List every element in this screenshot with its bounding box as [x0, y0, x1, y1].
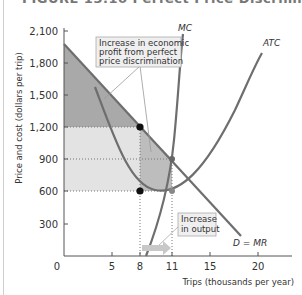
profit-callout-text: price discrimination [99, 56, 183, 66]
y-tick-label: 300 [39, 219, 58, 230]
dmr-label: D = MR [233, 238, 267, 248]
y-tick-label: 1,500 [29, 90, 58, 101]
callout-pointer [104, 66, 140, 99]
output-callout-text: in output [181, 224, 220, 234]
x-tick-label: 20 [252, 261, 265, 272]
point-8-1200 [136, 123, 143, 130]
y-axis-title: Price and cost (dollars per trip) [14, 52, 24, 184]
callout-pointer [158, 225, 180, 246]
y-tick-label: 2,100 [29, 26, 58, 37]
x-tick-label: 15 [204, 261, 217, 272]
point-8-600 [136, 187, 143, 194]
x-tick-label: 5 [109, 261, 115, 272]
mc-label: MC [178, 23, 193, 33]
point-11-600 [169, 188, 175, 194]
output-callout-text: Increase [181, 214, 217, 224]
point-11-900 [169, 156, 175, 162]
atc-label: ATC [262, 38, 281, 48]
y-tick-label: 1,800 [29, 58, 58, 69]
y-tick-label: 600 [39, 186, 58, 197]
y-tick-label: 900 [39, 154, 58, 165]
x-axis-title: Trips (thousands per year) [181, 277, 294, 287]
chart: 2,100 1,800 1,500 1,200 900 600 300 0 5 … [0, 0, 302, 295]
shaded-area-single-price-profit [64, 127, 140, 191]
x-tick-label: 11 [166, 261, 179, 272]
y-tick-label: 1,200 [29, 122, 58, 133]
x-tick-label: 8 [137, 261, 143, 272]
x-tick-label: 0 [54, 261, 60, 272]
